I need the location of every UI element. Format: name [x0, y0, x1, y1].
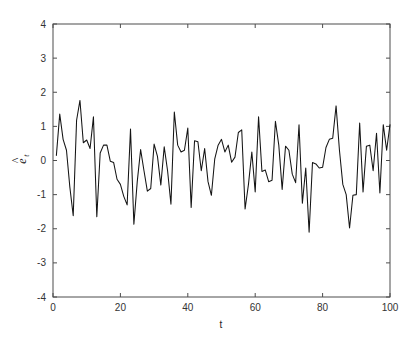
y-tick-label: 2	[40, 87, 46, 98]
x-tick-label: 60	[250, 302, 262, 313]
y-tick-label: -3	[37, 257, 46, 268]
x-tick-label: 0	[50, 302, 56, 313]
y-tick-label: -1	[37, 189, 46, 200]
y-tick-label: -4	[37, 292, 46, 303]
x-tick-label: 40	[182, 302, 194, 313]
x-axis-title: t	[220, 319, 223, 330]
plot-background	[0, 0, 417, 345]
figure-canvas: 020406080100 -4-3-2-101234 t e ^ t	[0, 0, 417, 345]
y-tick-label: -2	[37, 223, 46, 234]
x-tick-label: 100	[382, 302, 399, 313]
x-tick-label: 20	[115, 302, 127, 313]
y-tick-label: 3	[40, 53, 46, 64]
residual-plot-svg: 020406080100 -4-3-2-101234 t e ^ t	[0, 0, 417, 345]
y-tick-label: 1	[40, 121, 46, 132]
y-tick-label: 0	[40, 155, 46, 166]
x-tick-label: 80	[317, 302, 329, 313]
y-tick-label: 4	[40, 19, 46, 30]
